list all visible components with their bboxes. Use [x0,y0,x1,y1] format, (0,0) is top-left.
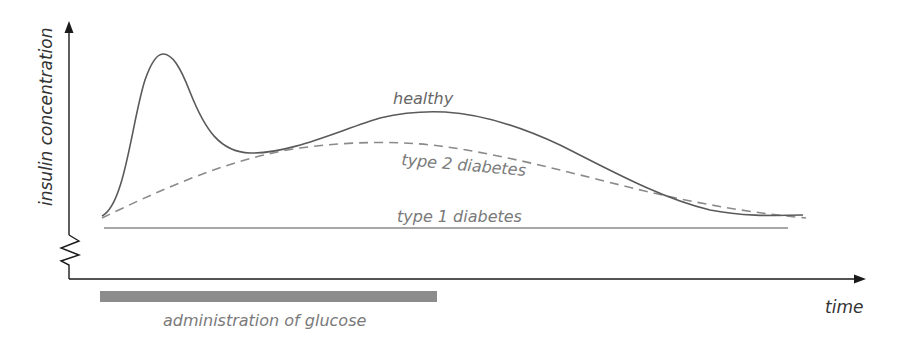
insulin-response-diagram: insulin concentration time healthy type … [0,0,898,345]
axis-break-zigzag-icon [61,235,79,279]
healthy-curve [102,54,803,216]
y-axis [61,21,79,279]
glucose-administration-label: administration of glucose [163,311,366,330]
y-axis-label: insulin concentration [36,28,56,207]
x-axis [69,275,866,284]
healthy-label: healthy [393,89,454,108]
x-axis-label: time [825,297,863,317]
type1-diabetes-label: type 1 diabetes [397,207,522,226]
type2-diabetes-label: type 2 diabetes [401,150,527,180]
glucose-administration-bar [100,291,437,302]
x-axis-arrow-icon [854,275,866,284]
y-axis-arrow-icon [65,21,74,33]
